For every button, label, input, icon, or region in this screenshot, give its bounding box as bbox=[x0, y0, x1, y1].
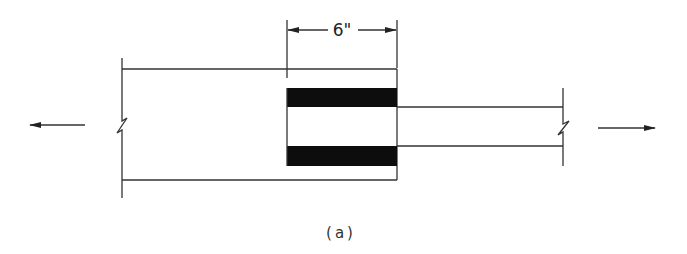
figure-caption: (a) bbox=[326, 224, 356, 242]
right-break-line-icon bbox=[558, 88, 569, 166]
left-break-line-icon bbox=[117, 58, 127, 198]
lap-joint-diagram: 6" (a) bbox=[0, 0, 687, 254]
inserted-plate bbox=[397, 88, 569, 166]
dimension-label: 6" bbox=[333, 20, 352, 40]
weld-top bbox=[287, 88, 397, 107]
main-plate bbox=[117, 58, 397, 198]
weld-bottom bbox=[287, 146, 397, 166]
